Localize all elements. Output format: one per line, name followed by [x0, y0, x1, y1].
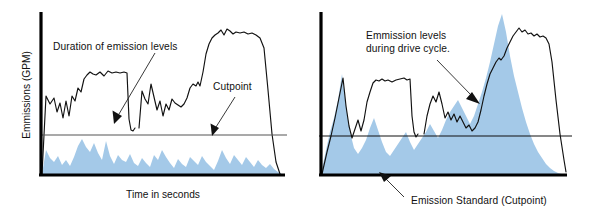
right-panel: Emmission levels during drive cycle. Emi… [319, 12, 572, 206]
right-standard-leader [385, 178, 404, 197]
left-cutpoint-label: Cutpoint [213, 81, 252, 92]
left-emission-band [42, 139, 282, 174]
emissions-svg: Duration of emission levels Cutpoint Emm… [0, 0, 591, 219]
left-panel: Duration of emission levels Cutpoint Emm… [21, 12, 287, 200]
left-duration-leader [119, 53, 155, 114]
right-emission-levels-leader [437, 60, 472, 96]
left-x-axis-label: Time in seconds [126, 189, 200, 200]
left-y-axis-label: Emmissions (GPM) [21, 51, 32, 139]
left-duration-arrowhead [113, 111, 123, 125]
left-cutpoint-leader [216, 97, 235, 127]
right-emission-levels-arrowhead [466, 92, 480, 104]
right-standard-label: Emission Standard (Cutpoint) [411, 195, 547, 206]
right-emission-levels-label-line2: during drive cycle. [366, 43, 450, 54]
left-cutpoint-arrowhead [211, 124, 220, 137]
emissions-figure: Duration of emission levels Cutpoint Emm… [0, 0, 591, 219]
right-emission-levels-label-line1: Emmission levels [366, 30, 446, 41]
left-duration-label: Duration of emission levels [53, 41, 177, 52]
